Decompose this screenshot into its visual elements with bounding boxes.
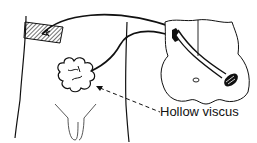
referred-pain-diagram xyxy=(0,0,257,143)
visceral-nerve-fiber xyxy=(84,31,172,74)
hollow-viscus xyxy=(58,58,95,92)
lower-body-outline xyxy=(55,104,96,140)
viscus-pointer-line xyxy=(100,88,160,112)
hollow-viscus-label: Hollow viscus xyxy=(160,104,239,119)
